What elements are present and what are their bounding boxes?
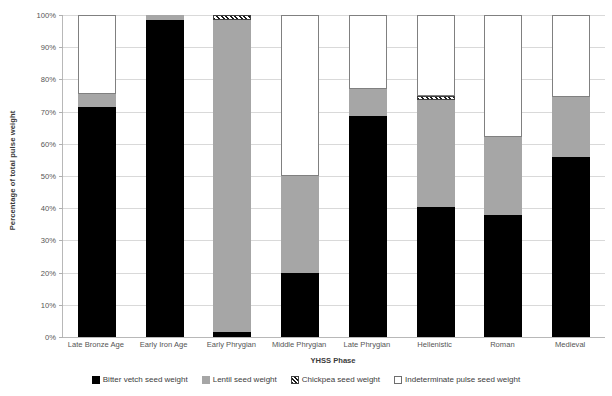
stacked-bar[interactable] bbox=[417, 15, 455, 337]
bar-segment[interactable] bbox=[349, 116, 387, 337]
bar-slot bbox=[470, 15, 538, 337]
y-axis-tick-label: 20% bbox=[41, 268, 56, 277]
x-axis-tick-label: Hellenistic bbox=[401, 340, 469, 356]
bar-segment[interactable] bbox=[78, 107, 116, 337]
bar-segment[interactable] bbox=[349, 15, 387, 89]
bar-segment[interactable] bbox=[78, 15, 116, 94]
bar-segment[interactable] bbox=[281, 176, 319, 273]
bar-segment[interactable] bbox=[552, 157, 590, 337]
y-axis-tick-label: 40% bbox=[41, 204, 56, 213]
bar-segment[interactable] bbox=[281, 273, 319, 337]
bar-segment[interactable] bbox=[213, 332, 251, 337]
legend-label: Bitter vetch seed weight bbox=[103, 375, 188, 384]
stacked-bar[interactable] bbox=[146, 15, 184, 337]
bar-slot bbox=[131, 15, 199, 337]
x-axis-tick-label: Medieval bbox=[536, 340, 604, 356]
bar-slot bbox=[266, 15, 334, 337]
legend-label: Chickpea seed weight bbox=[302, 375, 380, 384]
bar-segment[interactable] bbox=[281, 15, 319, 176]
x-axis-title: YHSS Phase bbox=[62, 356, 604, 365]
bar-segment[interactable] bbox=[417, 100, 455, 206]
bar-segment[interactable] bbox=[349, 89, 387, 116]
legend-item[interactable]: Chickpea seed weight bbox=[291, 375, 380, 384]
x-axis-tick-label: Late Bronze Age bbox=[62, 340, 130, 356]
bar-segment[interactable] bbox=[78, 94, 116, 107]
y-axis-tick-label: 80% bbox=[41, 75, 56, 84]
y-axis-tick-label: 60% bbox=[41, 139, 56, 148]
x-axis-tick-label: Middle Phrygian bbox=[265, 340, 333, 356]
legend-item[interactable]: Indeterminate pulse seed weight bbox=[394, 375, 520, 384]
stacked-bar-chart: Percentage of total pulse weight 0%10%20… bbox=[0, 0, 612, 396]
bar-slot bbox=[402, 15, 470, 337]
y-axis-tick-label: 10% bbox=[41, 300, 56, 309]
x-axis-tick-label: Early Phrygian bbox=[198, 340, 266, 356]
bar-segment[interactable] bbox=[417, 207, 455, 337]
bar-slot bbox=[199, 15, 267, 337]
legend-label: Lentil seed weight bbox=[213, 375, 277, 384]
bar-slot bbox=[63, 15, 131, 337]
bar-segment[interactable] bbox=[213, 20, 251, 332]
y-axis-tick-label: 0% bbox=[45, 333, 56, 342]
y-axis-tick-label: 70% bbox=[41, 107, 56, 116]
legend-swatch-icon bbox=[291, 376, 299, 384]
legend-item[interactable]: Bitter vetch seed weight bbox=[92, 375, 188, 384]
bar-segment[interactable] bbox=[552, 97, 590, 157]
y-axis-tick-label: 100% bbox=[37, 11, 56, 20]
x-axis-tick-label: Early Iron Age bbox=[130, 340, 198, 356]
y-axis-tick-labels: 0%10%20%30%40%50%60%70%80%90%100% bbox=[22, 15, 60, 337]
y-axis-tick-label: 30% bbox=[41, 236, 56, 245]
legend-swatch-icon bbox=[394, 376, 402, 384]
bar-group bbox=[63, 15, 605, 337]
x-axis-tick-label: Roman bbox=[469, 340, 537, 356]
legend-swatch-icon bbox=[92, 376, 100, 384]
x-axis-tick-label: Late Phrygian bbox=[333, 340, 401, 356]
y-axis-tick-label: 50% bbox=[41, 172, 56, 181]
stacked-bar[interactable] bbox=[213, 15, 251, 337]
y-axis-title: Percentage of total pulse weight bbox=[2, 0, 24, 340]
bar-segment[interactable] bbox=[417, 15, 455, 96]
bar-segment[interactable] bbox=[484, 15, 522, 137]
x-axis-tick-labels: Late Bronze AgeEarly Iron AgeEarly Phryg… bbox=[62, 340, 604, 356]
stacked-bar[interactable] bbox=[484, 15, 522, 337]
bar-segment[interactable] bbox=[146, 20, 184, 337]
legend-label: Indeterminate pulse seed weight bbox=[405, 375, 520, 384]
legend-item[interactable]: Lentil seed weight bbox=[202, 375, 277, 384]
stacked-bar[interactable] bbox=[552, 15, 590, 337]
stacked-bar[interactable] bbox=[281, 15, 319, 337]
y-axis-tick-label: 90% bbox=[41, 43, 56, 52]
y-axis-tickmark bbox=[59, 337, 63, 338]
bar-segment[interactable] bbox=[552, 15, 590, 97]
chart-legend: Bitter vetch seed weightLentil seed weig… bbox=[0, 375, 612, 384]
y-axis-title-text: Percentage of total pulse weight bbox=[9, 110, 18, 230]
legend-swatch-icon bbox=[202, 376, 210, 384]
bar-slot bbox=[537, 15, 605, 337]
stacked-bar[interactable] bbox=[78, 15, 116, 337]
stacked-bar[interactable] bbox=[349, 15, 387, 337]
bar-segment[interactable] bbox=[484, 215, 522, 337]
plot-area bbox=[62, 15, 605, 338]
bar-segment[interactable] bbox=[484, 137, 522, 214]
bar-slot bbox=[334, 15, 402, 337]
